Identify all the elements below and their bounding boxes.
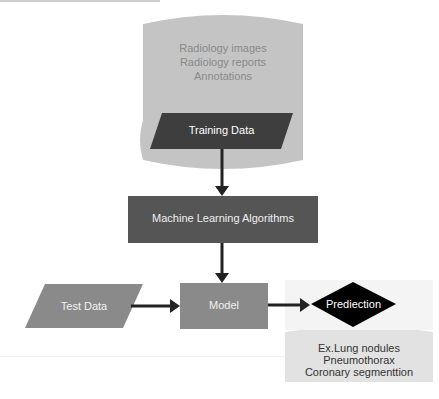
arrowhead-icon	[215, 273, 229, 283]
model-label: Model	[180, 299, 268, 311]
source-data-text: Radiology images Radiology reports Annot…	[143, 41, 303, 83]
source-line-1: Radiology images	[143, 41, 303, 55]
results-text: Ex.Lung nodules Pneumothorax Coronary se…	[285, 342, 433, 378]
training-data-label: Training Data	[150, 124, 293, 136]
arrowhead-icon	[215, 186, 229, 196]
prediction-label: Prediection	[311, 298, 396, 310]
arrowhead-icon	[170, 299, 180, 313]
result-line-2: Pneumothorax	[285, 354, 433, 366]
ml-algorithms-label: Machine Learning Algorithms	[128, 212, 318, 224]
source-line-3: Annotations	[143, 69, 303, 83]
source-line-2: Radiology reports	[143, 55, 303, 69]
result-line-1: Ex.Lung nodules	[285, 342, 433, 354]
result-line-3: Coronary segmenttion	[285, 366, 433, 378]
test-data-label: Test Data	[25, 300, 143, 312]
